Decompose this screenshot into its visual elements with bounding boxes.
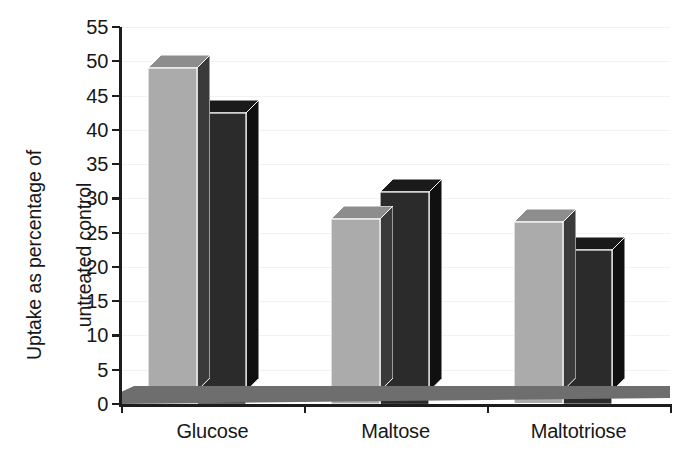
x-axis-tick — [487, 404, 489, 413]
y-axis-tick-label: 5 — [97, 360, 108, 380]
y-axis-tick-label: 25 — [86, 223, 108, 243]
y-axis-tick-labels: 0510152025303540455055 — [66, 0, 108, 458]
bar-maltose-series-1 — [331, 206, 393, 404]
y-axis-tick — [112, 197, 120, 199]
y-axis-tick — [112, 129, 120, 131]
bar-chart: Uptake as percentage of untreated contro… — [0, 0, 687, 458]
y-axis-tick — [112, 232, 120, 234]
bar-shape — [514, 209, 576, 404]
x-axis-category-label: Maltotriose — [487, 419, 670, 443]
floor-plane-shape — [121, 386, 670, 405]
y-axis-tick-label: 15 — [86, 291, 108, 311]
y-axis-tick — [112, 266, 120, 268]
y-axis-line — [119, 27, 122, 405]
bar-shape — [148, 55, 210, 404]
floor-plane — [121, 386, 670, 405]
y-axis-tick-label: 10 — [86, 325, 108, 345]
y-axis-tick — [112, 60, 120, 62]
y-axis-tick-label: 55 — [86, 17, 108, 37]
bar-maltotriose-series-1 — [514, 209, 576, 404]
y-axis-tick — [112, 26, 120, 28]
y-axis-tick-label: 40 — [86, 120, 108, 140]
gridline — [121, 27, 670, 28]
y-axis-tick — [112, 300, 120, 302]
y-axis-title-line-1: Uptake as percentage of — [23, 150, 45, 360]
y-axis-tick-label: 30 — [86, 188, 108, 208]
bar-glucose-series-1 — [148, 55, 210, 404]
y-axis-tick — [112, 369, 120, 371]
y-axis-tick-label: 45 — [86, 86, 108, 106]
plot-area — [121, 27, 670, 405]
x-axis-category-label: Glucose — [121, 419, 304, 443]
y-axis-tick-label: 0 — [97, 394, 108, 414]
bar-shape — [331, 206, 393, 404]
x-axis-category-label: Maltose — [304, 419, 487, 443]
y-axis-tick — [112, 334, 120, 336]
y-axis-tick-label: 20 — [86, 257, 108, 277]
y-axis-tick — [112, 403, 120, 405]
y-axis-tick — [112, 163, 120, 165]
y-axis-tick-label: 50 — [86, 51, 108, 71]
x-axis-tick — [670, 404, 672, 413]
x-axis-tick — [304, 404, 306, 413]
x-axis-tick — [121, 404, 123, 413]
x-axis-line — [119, 404, 670, 407]
y-axis-tick — [112, 95, 120, 97]
y-axis-tick-label: 35 — [86, 154, 108, 174]
